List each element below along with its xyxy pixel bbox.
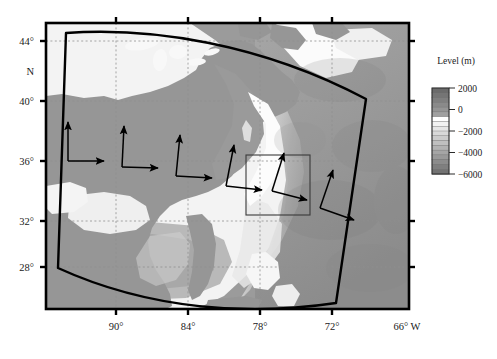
colorbar-label-2000: 2000 [458,84,477,94]
x-tick-label-72: 72° [325,321,340,332]
colorbar-label-minus4000: −4000 [458,148,483,158]
y-tick-label-28: 28° [19,262,34,273]
colorbar-band [432,93,449,98]
y-tick-label-36: 36° [19,156,34,167]
arrow-pair-2-horizontal [122,167,158,168]
colorbar: Level (m) 2000 0 −2000 −4000 −6000 [432,56,483,180]
colorbar-band [432,117,449,122]
colorbar-band [432,102,449,107]
figure-container: 90° 84° 78° 72° 66° W 44° N 40° 36° 32° … [0,0,497,359]
x-tick-label-78: 78° [253,321,268,332]
colorbar-band [432,131,449,136]
hemisphere-label-north: N [26,66,34,77]
colorbar-bands [432,88,449,174]
colorbar-band [432,150,449,155]
colorbar-band [432,155,449,160]
y-tick-label-32: 32° [19,216,34,227]
colorbar-band [432,164,449,169]
colorbar-band [432,160,449,165]
colorbar-band [432,126,449,131]
colorbar-tick-marks [449,88,455,174]
colorbar-label-minus2000: −2000 [458,127,483,137]
colorbar-title: Level (m) [437,56,475,67]
colorbar-band [432,98,449,103]
map-panel: 90° 84° 78° 72° 66° W 44° N 40° 36° 32° … [19,17,420,332]
colorbar-band [432,88,449,93]
colorbar-label-minus6000: −6000 [458,170,483,180]
colorbar-band [432,121,449,126]
x-tick-label-90: 90° [109,321,124,332]
colorbar-band [432,112,449,117]
x-tick-label-84: 84° [181,321,196,332]
map-figure: 90° 84° 78° 72° 66° W 44° N 40° 36° 32° … [0,0,497,359]
y-tick-label-40: 40° [19,96,34,107]
y-tick-label-44: 44° [19,36,34,47]
colorbar-band [432,145,449,150]
colorbar-label-0: 0 [458,105,463,115]
colorbar-band [432,136,449,141]
colorbar-band [432,107,449,112]
x-tick-label-66: 66° W [393,321,420,332]
colorbar-band [432,141,449,146]
